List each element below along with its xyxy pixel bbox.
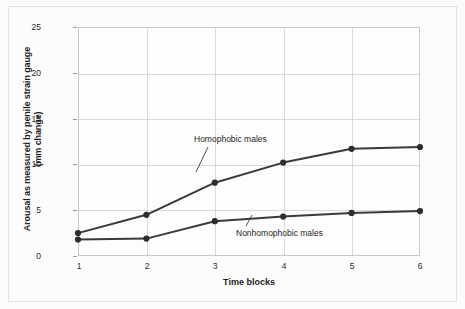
gridline-x-5	[352, 28, 353, 255]
y-tick-mark-15	[73, 119, 77, 120]
x-tick-label-1: 1	[67, 261, 91, 271]
annotation-nonhomophobic-males: Nonhomophobic males	[236, 228, 323, 238]
y-tick-mark-25	[73, 27, 77, 28]
y-tick-label-10: 10	[17, 159, 41, 169]
y-tick-label-15: 15	[17, 114, 41, 124]
gridline-y-20	[79, 74, 419, 75]
x-tick-label-5: 5	[340, 261, 364, 271]
gridline-y-10	[79, 165, 419, 166]
y-tick-mark-0	[73, 256, 77, 257]
x-tick-label-4: 4	[272, 261, 296, 271]
y-tick-mark-5	[73, 210, 77, 211]
x-tick-label-6: 6	[408, 261, 432, 271]
y-tick-label-5: 5	[17, 205, 41, 215]
chart-page: Arousal as measured by penile strain gau…	[0, 0, 465, 309]
y-tick-mark-10	[73, 164, 77, 165]
x-tick-label-3: 3	[203, 261, 227, 271]
y-tick-label-20: 20	[17, 68, 41, 78]
y-tick-label-25: 25	[17, 22, 41, 32]
y-tick-mark-20	[73, 73, 77, 74]
line-chart-figure: Arousal as measured by penile strain gau…	[0, 0, 465, 309]
gridline-y-15	[79, 119, 419, 120]
gridline-x-2	[147, 28, 148, 255]
gridline-y-5	[79, 210, 419, 211]
y-tick-label-0: 0	[17, 251, 41, 261]
gridline-x-4	[284, 28, 285, 255]
annotation-homophobic-males: Homophobic males	[194, 134, 267, 144]
x-tick-label-2: 2	[135, 261, 159, 271]
x-axis-title: Time blocks	[78, 277, 420, 287]
